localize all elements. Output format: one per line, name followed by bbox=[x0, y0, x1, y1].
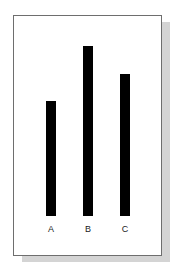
bar-a bbox=[46, 101, 56, 216]
category-label-a: A bbox=[41, 224, 61, 234]
category-label-c: C bbox=[115, 224, 135, 234]
category-label-b: B bbox=[78, 224, 98, 234]
bar-b bbox=[83, 46, 93, 216]
bar-c bbox=[120, 74, 130, 216]
